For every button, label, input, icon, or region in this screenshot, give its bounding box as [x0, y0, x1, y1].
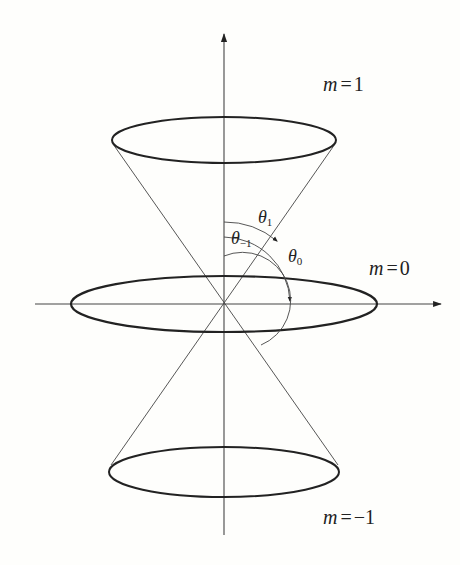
- label-theta-0: θ0: [288, 246, 303, 267]
- label-m-minus-1: m=−1: [323, 506, 375, 528]
- label-theta-1: θ1: [258, 207, 272, 228]
- label-m-1: m=1: [323, 73, 364, 95]
- cone-diagram: m=1 m=0 m=−1 θ1 θ−1 θ0: [0, 0, 460, 565]
- label-theta-minus-1: θ−1: [231, 228, 252, 249]
- diagram-canvas: m=1 m=0 m=−1 θ1 θ−1 θ0: [0, 0, 460, 565]
- label-m-0: m=0: [369, 257, 410, 279]
